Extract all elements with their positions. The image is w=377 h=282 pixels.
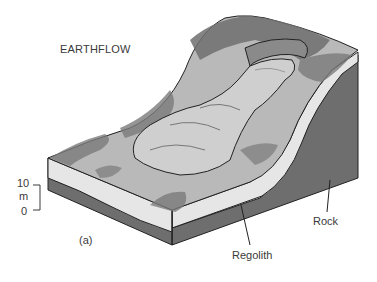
regolith-label: Regolith — [232, 250, 272, 261]
scale-top-value: 10 — [17, 178, 29, 189]
figure-title: EARTHFLOW — [60, 44, 131, 55]
rock-label: Rock — [313, 216, 338, 227]
scale-bar — [33, 185, 40, 210]
scale-unit: m — [19, 191, 28, 202]
panel-label: (a) — [79, 235, 92, 246]
scale-bottom-value: 0 — [21, 206, 27, 217]
earthflow-block-diagram — [0, 0, 377, 282]
